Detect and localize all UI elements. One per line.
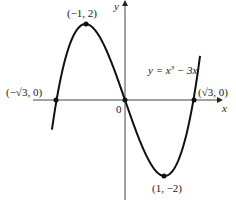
label-root-positive: (√3, 0) bbox=[198, 86, 228, 99]
origin-label: 0 bbox=[116, 103, 122, 115]
point-root-positive bbox=[192, 98, 197, 103]
point-local-min bbox=[162, 174, 167, 179]
label-local-min: (1, −2) bbox=[152, 182, 182, 195]
y-axis-label: y bbox=[113, 0, 119, 12]
point-local-max bbox=[84, 22, 89, 27]
function-label: y = x3 − 3x bbox=[147, 64, 198, 76]
label-local-max: (−1, 2) bbox=[67, 7, 97, 20]
point-root-negative bbox=[54, 98, 59, 103]
cubic-function-graph: (−1, 2) (1, −2) (−√3, 0) (√3, 0) 0 x y y… bbox=[0, 0, 236, 203]
label-root-negative: (−√3, 0) bbox=[6, 86, 42, 99]
point-origin bbox=[123, 98, 128, 103]
x-axis-label: x bbox=[221, 102, 227, 114]
